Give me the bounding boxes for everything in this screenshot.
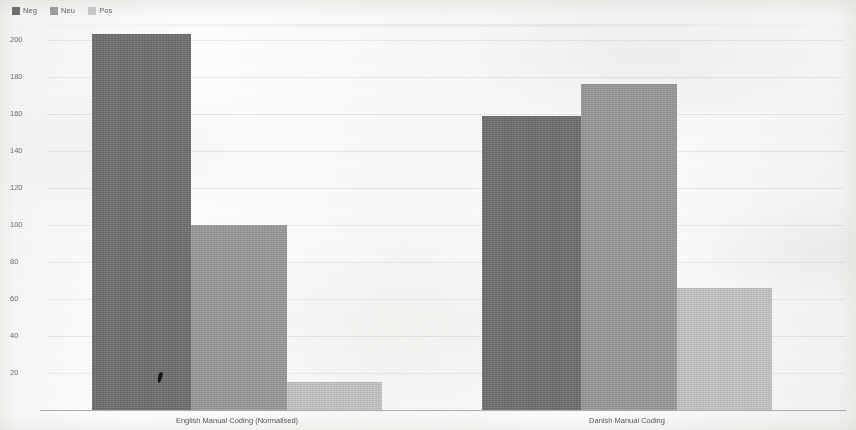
chart-legend: Neg Neu Pos xyxy=(12,7,112,15)
y-tick-label-60: 60 xyxy=(10,295,43,303)
legend-swatch-neg xyxy=(12,7,20,15)
y-tick-label-80: 80 xyxy=(10,258,43,266)
bar-neu-group1[interactable] xyxy=(191,225,287,410)
bar-pos-group1[interactable] xyxy=(287,382,382,410)
bar-neu-group2[interactable] xyxy=(581,84,677,410)
y-tick-label-140: 140 xyxy=(10,147,43,155)
bar-neg-group1[interactable] xyxy=(92,34,191,410)
chart-page: Neg Neu Pos 20406080100120140160180200 E… xyxy=(0,0,856,430)
bar-pos-group2[interactable] xyxy=(677,288,772,410)
x-axis-line xyxy=(40,410,846,411)
legend-label-neu: Neu xyxy=(61,7,75,15)
legend-item-pos[interactable]: Pos xyxy=(88,7,112,15)
legend-label-pos: Pos xyxy=(99,7,112,15)
y-tick-label-180: 180 xyxy=(10,73,43,81)
legend-label-neg: Neg xyxy=(23,7,37,15)
legend-item-neu[interactable]: Neu xyxy=(50,7,75,15)
legend-item-neg[interactable]: Neg xyxy=(12,7,37,15)
bar-neg-group2[interactable] xyxy=(482,116,581,410)
x-category-label-2: Danish Manual Coding xyxy=(517,417,737,425)
x-category-label-1: English Manual Coding (Normalised) xyxy=(127,417,347,425)
y-tick-label-200: 200 xyxy=(10,36,43,44)
y-tick-label-20: 20 xyxy=(10,369,43,377)
y-tick-label-100: 100 xyxy=(10,221,43,229)
legend-swatch-pos xyxy=(88,7,96,15)
legend-swatch-neu xyxy=(50,7,58,15)
y-tick-label-40: 40 xyxy=(10,332,43,340)
y-tick-label-120: 120 xyxy=(10,184,43,192)
plot-area: 20406080100120140160180200 English Manua… xyxy=(0,0,856,430)
y-tick-label-160: 160 xyxy=(10,110,43,118)
